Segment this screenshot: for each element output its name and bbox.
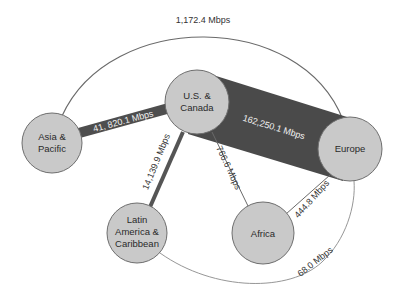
node-label-line: U.S. &: [183, 90, 211, 101]
node-label-line: Europe: [335, 143, 366, 154]
node-label-line: Africa: [251, 228, 276, 239]
node-label-line: Caribbean: [115, 238, 159, 249]
node-label-line: Canada: [180, 102, 214, 113]
link-label-africa-europe: 444.8 Mbps: [292, 178, 331, 220]
link-label-asia-europe: 1,172.4 Mbps: [176, 15, 231, 25]
node-europe: Europe: [318, 117, 382, 181]
node-asia-pacific: Asia & Pacific: [22, 113, 82, 173]
node-africa: Africa: [232, 202, 294, 264]
node-label-line: Latin: [127, 214, 148, 225]
link-label-us-latam: 14,139.9 Mbps: [140, 132, 172, 191]
link-label-us-africa: 766.6 Mbps: [214, 144, 243, 191]
node-label-line: America &: [115, 226, 159, 237]
node-label-line: Asia &: [38, 131, 66, 142]
link-label-asia-us: 41, 820.1 Mbps: [92, 108, 155, 134]
bandwidth-diagram: 1,172.4 Mbps 68.0 Mbps 162,250.1 Mbps 41…: [0, 0, 396, 302]
link-label-latam-europe: 68.0 Mbps: [296, 244, 336, 278]
node-latin-america-caribbean: Latin America & Caribbean: [107, 203, 167, 263]
node-label-line: Pacific: [38, 143, 66, 154]
node-us-canada: U.S. & Canada: [165, 70, 229, 134]
